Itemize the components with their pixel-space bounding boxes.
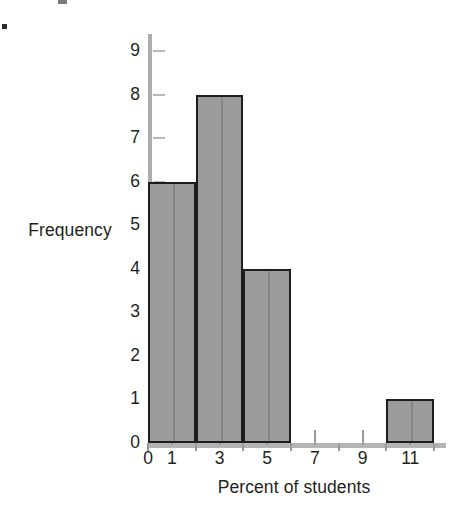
scan-artifact-left-icon xyxy=(2,24,7,29)
x-axis-tick xyxy=(314,430,316,445)
y-axis-tick xyxy=(153,137,165,139)
x-axis-tick-label: 11 xyxy=(390,450,430,468)
y-axis-tick-label: 5 xyxy=(120,217,140,235)
y-axis-tick xyxy=(153,94,165,96)
x-axis-tick-label: 3 xyxy=(200,450,240,468)
y-axis-tick-label: 3 xyxy=(120,304,140,322)
bin-divider xyxy=(221,97,223,441)
x-axis-tick xyxy=(290,443,292,451)
x-axis-tick-label: 7 xyxy=(295,450,335,468)
bin-divider xyxy=(173,184,175,441)
histogram-bar xyxy=(243,269,291,443)
x-axis-tick xyxy=(338,443,340,451)
x-axis-tick xyxy=(362,430,364,445)
y-axis-tick-label: 4 xyxy=(120,260,140,278)
y-axis-title: Frequency xyxy=(22,220,118,241)
x-axis-tick-label: 5 xyxy=(247,450,287,468)
histogram-bar xyxy=(386,399,434,443)
histogram-figure: Frequency 0123456789 01357911 Percent of… xyxy=(0,0,466,515)
y-axis-tick-label: 8 xyxy=(120,86,140,104)
scan-artifact-top-icon xyxy=(58,0,67,4)
x-axis-tick-label: 1 xyxy=(152,450,192,468)
x-axis-title: Percent of students xyxy=(186,477,402,498)
y-axis-tick-label: 7 xyxy=(120,130,140,148)
x-axis-tick xyxy=(385,443,387,451)
bin-divider xyxy=(268,271,270,441)
plot-area: 0123456789 01357911 xyxy=(148,34,446,444)
bin-divider xyxy=(411,401,413,441)
y-axis-tick-label: 9 xyxy=(120,43,140,61)
y-axis-tick-label: 6 xyxy=(120,173,140,191)
y-axis-tick-label: 1 xyxy=(120,391,140,409)
histogram-bar xyxy=(148,182,196,443)
y-axis-tick-label: 2 xyxy=(120,347,140,365)
x-axis-tick xyxy=(242,443,244,451)
x-axis-tick-label: 9 xyxy=(343,450,383,468)
x-axis-tick xyxy=(195,443,197,451)
histogram-bar xyxy=(196,95,244,443)
y-axis-tick xyxy=(153,50,165,52)
x-axis-tick xyxy=(433,443,435,451)
